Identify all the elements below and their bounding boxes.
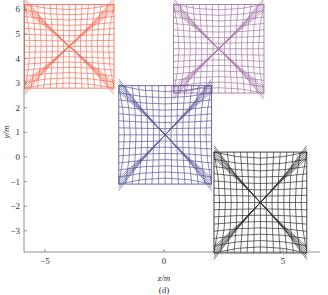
red-structure (25, 0, 115, 95)
y-tick-label: 6 (16, 4, 21, 14)
x-tick-label: −5 (40, 256, 50, 266)
chart-figure: −505 −3−2−10123456 z/m (d) y/m (0, 0, 328, 295)
y-tick-label: 2 (16, 103, 21, 113)
black-structure (214, 145, 307, 259)
y-axis-label: y/m (1, 125, 11, 139)
y-tick-label: 0 (16, 152, 21, 162)
y-tick-label: −3 (10, 226, 20, 236)
y-tick-label: 4 (16, 54, 21, 64)
y-tick-label: 1 (16, 127, 21, 137)
y-tick-label: −2 (10, 201, 20, 211)
x-ticks: −505 (40, 249, 286, 266)
y-tick-label: 5 (16, 29, 21, 39)
y-tick-label: 3 (16, 78, 21, 88)
y-tick-label: −1 (10, 177, 20, 187)
mesh-structures (25, 0, 307, 260)
blue-structure (119, 79, 212, 191)
x-tick-label: 5 (281, 256, 286, 266)
x-tick-label: 0 (162, 256, 167, 266)
x-axis-label: z/m (157, 273, 171, 283)
purple-structure (174, 0, 264, 100)
figure-caption: (d) (159, 285, 170, 295)
